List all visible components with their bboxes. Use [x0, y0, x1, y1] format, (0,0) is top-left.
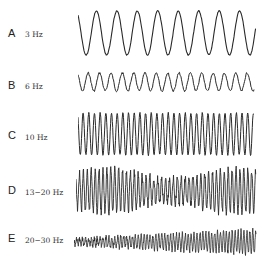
- waveform-c: [78, 108, 264, 160]
- row-frequency: 3 Hz: [25, 30, 43, 39]
- row-letter: E: [8, 232, 15, 244]
- row-frequency: 10 Hz: [25, 133, 47, 142]
- waveform-a: [78, 6, 264, 60]
- row-letter: D: [8, 184, 16, 196]
- waveform-b: [78, 66, 264, 98]
- row-frequency: 20−30 Hz: [25, 236, 63, 245]
- row-letter: B: [8, 79, 15, 91]
- row-letter: A: [8, 27, 15, 39]
- row-frequency: 6 Hz: [25, 82, 43, 91]
- row-frequency: 13−20 Hz: [25, 188, 63, 197]
- waveform-e: [74, 222, 264, 262]
- row-letter: C: [8, 129, 16, 141]
- waveform-d: [76, 165, 264, 217]
